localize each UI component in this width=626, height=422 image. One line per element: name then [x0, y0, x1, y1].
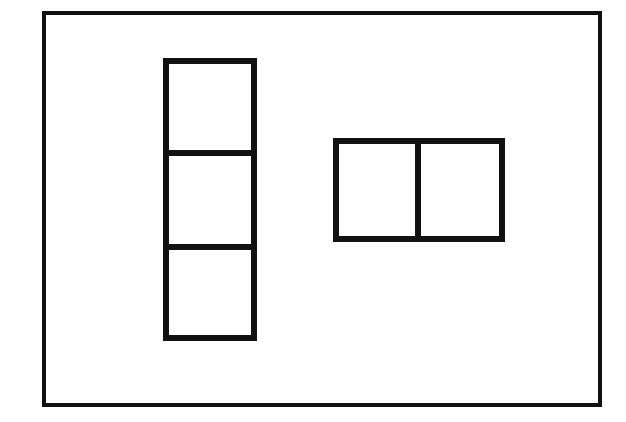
vertical-tromino-outline — [166, 61, 254, 338]
vertical-tromino-shape — [163, 61, 257, 338]
canvas-background — [0, 0, 626, 422]
diagram-canvas — [0, 0, 626, 422]
horizontal-domino-shape — [336, 138, 502, 242]
figure-root — [0, 0, 626, 422]
